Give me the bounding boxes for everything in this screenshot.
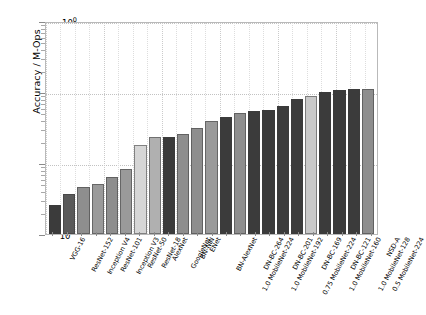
bar-slot — [261, 23, 275, 234]
bar-slot — [219, 23, 233, 234]
x-axis-tick-mark — [371, 232, 372, 236]
bar[interactable] — [191, 128, 203, 234]
bar[interactable] — [333, 90, 345, 234]
x-axis-tick-mark — [313, 232, 314, 236]
bar[interactable] — [248, 111, 260, 234]
bar[interactable] — [234, 113, 246, 234]
bar-slot — [119, 23, 133, 234]
x-axis-tick-mark — [356, 232, 357, 236]
bar-slot — [162, 23, 176, 234]
bar[interactable] — [348, 89, 360, 234]
x-axis-tick-mark — [197, 232, 198, 236]
x-axis-tick-label: VGG-16 — [69, 236, 88, 262]
bar[interactable] — [49, 205, 61, 234]
bar-slot — [347, 23, 361, 234]
x-axis-tick-mark — [168, 232, 169, 236]
bar-slot — [91, 23, 105, 234]
bar[interactable] — [63, 194, 75, 234]
bar[interactable] — [319, 92, 331, 234]
x-axis-tick-mark — [139, 232, 140, 236]
bar-slot — [290, 23, 304, 234]
bar-slot — [233, 23, 247, 234]
x-axis-tick-mark — [125, 232, 126, 236]
x-axis-tick-mark — [212, 232, 213, 236]
bar[interactable] — [149, 137, 161, 234]
bar-slot — [318, 23, 332, 234]
bar[interactable] — [77, 187, 89, 234]
bar-slot — [48, 23, 62, 234]
bar[interactable] — [92, 184, 104, 234]
x-axis-tick-mark — [284, 232, 285, 236]
x-axis-tick-mark — [327, 232, 328, 236]
bar-slot — [62, 23, 76, 234]
x-axis-tick-mark — [269, 232, 270, 236]
x-axis-tick-mark — [67, 232, 68, 236]
x-axis-tick-mark — [240, 232, 241, 236]
bar-slot — [190, 23, 204, 234]
bar[interactable] — [262, 110, 274, 234]
bar[interactable] — [106, 177, 118, 234]
bar[interactable] — [134, 145, 146, 234]
x-axis-tick-mark — [154, 232, 155, 236]
bar-series — [46, 23, 377, 234]
x-axis-tick-label: BN-AlexNet — [234, 236, 258, 272]
x-axis-tick-mark — [52, 232, 53, 236]
x-axis-tick-mark — [183, 232, 184, 236]
x-axis-tick-mark — [255, 232, 256, 236]
plot-area — [45, 22, 378, 235]
bar[interactable] — [291, 99, 303, 235]
x-axis-tick-mark — [110, 232, 111, 236]
bar-slot — [148, 23, 162, 234]
x-axis-tick-mark — [81, 232, 82, 236]
x-axis-tick-mark — [226, 232, 227, 236]
bar-slot — [304, 23, 318, 234]
x-axis-tick-mark — [342, 232, 343, 236]
bar-slot — [204, 23, 218, 234]
bar[interactable] — [220, 117, 232, 234]
bar[interactable] — [305, 96, 317, 234]
bar-slot — [361, 23, 375, 234]
x-axis-tick-label-group: VGG-16ResNet-152Inception V4ResNet-101In… — [45, 236, 378, 315]
bar[interactable] — [163, 137, 175, 234]
bar-slot — [133, 23, 147, 234]
bar-slot — [76, 23, 90, 234]
bar[interactable] — [277, 106, 289, 234]
bar-slot — [276, 23, 290, 234]
bar[interactable] — [362, 89, 374, 234]
bar-slot — [176, 23, 190, 234]
bar-slot — [332, 23, 346, 234]
bar[interactable] — [120, 169, 132, 234]
bar-slot — [247, 23, 261, 234]
bar[interactable] — [177, 134, 189, 234]
bar[interactable] — [205, 121, 217, 234]
x-axis-tick-mark — [96, 232, 97, 236]
bar-slot — [105, 23, 119, 234]
x-axis-tick-mark — [298, 232, 299, 236]
